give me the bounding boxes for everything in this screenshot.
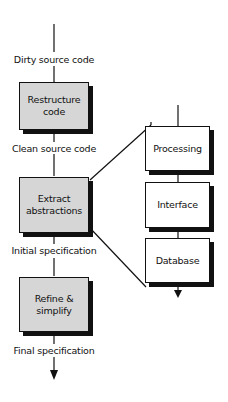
arrow-down-icon <box>174 290 182 298</box>
stack-item-interface: Interface <box>145 182 210 228</box>
arrow-down-icon <box>50 370 58 380</box>
stack-item-database: Database <box>145 238 210 283</box>
step-restructure-code: Restructure code <box>19 82 89 130</box>
label-dirty-source-code: Dirty source code <box>14 54 94 65</box>
label-clean-source-code: Clean source code <box>12 143 96 154</box>
step-refine-simplify: Refine & simplify <box>19 277 89 332</box>
step-extract-abstractions: Extract abstractions <box>19 177 89 233</box>
label-final-specification: Final specification <box>13 345 94 356</box>
stack-item-processing: Processing <box>145 126 210 171</box>
label-initial-specification: Initial specification <box>11 245 96 256</box>
